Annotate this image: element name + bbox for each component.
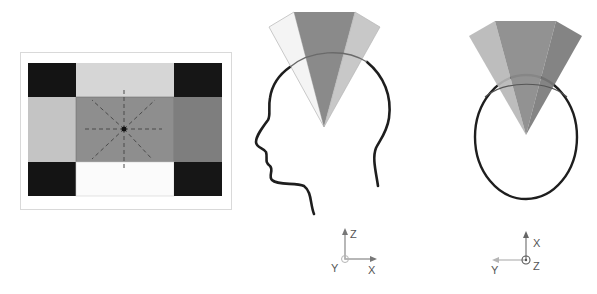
z-arrow-icon — [342, 228, 348, 235]
bottom-center-block — [76, 162, 174, 196]
side-view-panel — [256, 12, 390, 214]
head-back-outline — [367, 62, 390, 186]
top-left-black-block — [28, 63, 76, 97]
axis-label-x-top: X — [533, 237, 541, 249]
x-arrow-icon — [370, 256, 377, 262]
top-right-black-block — [174, 63, 222, 97]
diagram-canvas: Z X Y X Z Y — [0, 0, 597, 294]
top-view-panel — [469, 21, 582, 199]
axis-label-y-top: Y — [491, 264, 499, 276]
y-arrow-icon-top — [492, 257, 499, 263]
axis-label-x: X — [368, 264, 376, 276]
axis-label-z-top: Z — [533, 260, 540, 272]
center-point — [122, 127, 127, 132]
axis-label-y: Y — [331, 262, 339, 274]
top-axes: X Z Y — [491, 231, 541, 276]
side-axes: Z X Y — [331, 228, 377, 276]
top-center-block — [76, 63, 174, 97]
mid-left-block — [28, 97, 76, 162]
x-arrow-icon-top — [523, 231, 529, 238]
screen-grid-panel — [21, 53, 232, 210]
axis-label-z: Z — [350, 228, 357, 240]
bottom-left-black-block — [28, 162, 76, 196]
mid-right-block — [174, 97, 222, 162]
bottom-right-black-block — [174, 162, 222, 196]
